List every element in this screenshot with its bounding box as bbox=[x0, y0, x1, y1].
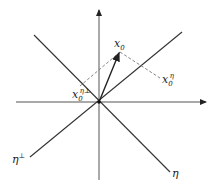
label-eta: η bbox=[172, 168, 179, 179]
eta-line bbox=[34, 35, 170, 172]
label-x0-perp: x0η⊥ bbox=[72, 88, 90, 103]
label-x0: x0 bbox=[114, 38, 125, 52]
vector-x0 bbox=[99, 53, 119, 102]
origin-point bbox=[97, 100, 101, 104]
dashed-proj-perp bbox=[80, 52, 120, 86]
eta-perp-line bbox=[30, 32, 182, 157]
label-eta-perp: η⊥ bbox=[12, 153, 25, 165]
decomposition-diagram bbox=[0, 0, 219, 193]
dashed-proj-eta bbox=[120, 52, 160, 78]
label-x0-eta: x0η bbox=[162, 73, 174, 88]
